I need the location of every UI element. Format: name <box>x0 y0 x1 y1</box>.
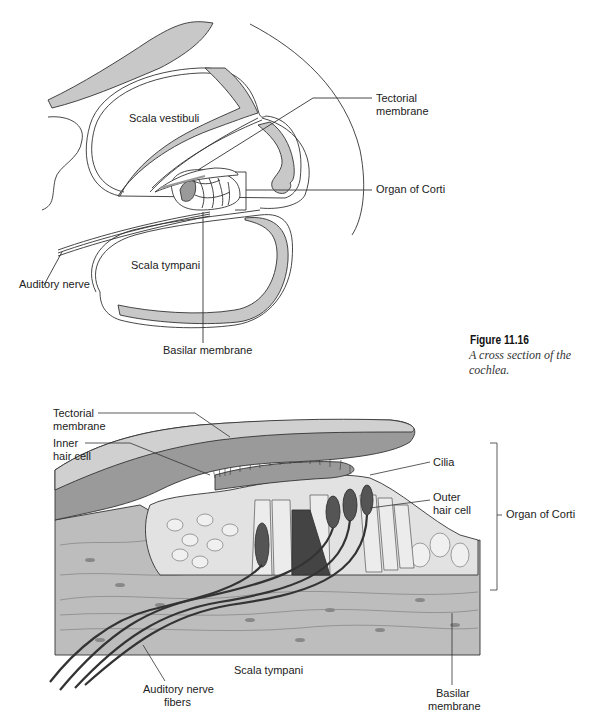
label-tectorial-membrane-top-2: membrane <box>376 105 429 118</box>
label-tectorial-membrane-top-1: Tectorial <box>376 92 417 105</box>
label-cilia: Cilia <box>433 456 454 469</box>
label-basilar-membrane-bottom-1: Basilar <box>436 687 470 700</box>
figure-number: Figure 11.16 <box>470 333 529 347</box>
label-basilar-membrane-bottom-2: membrane <box>428 700 481 713</box>
label-inner-hair-cell-1: Inner <box>53 437 78 450</box>
label-inner-hair-cell-2: hair cell <box>53 450 91 463</box>
label-outer-hair-cell-2: hair cell <box>433 504 471 517</box>
label-tectorial-membrane-bottom-2: membrane <box>53 420 106 433</box>
label-organ-of-corti-top: Organ of Corti <box>376 183 445 196</box>
label-basilar-membrane-top: Basilar membrane <box>163 344 252 357</box>
label-outer-hair-cell-1: Outer <box>433 491 461 504</box>
label-auditory-nerve: Auditory nerve <box>19 278 90 291</box>
label-scala-vestibuli: Scala vestibuli <box>129 112 199 125</box>
label-auditory-nerve-fibers-1: Auditory nerve <box>143 683 214 696</box>
label-scala-tympani-bottom: Scala tympani <box>234 664 303 677</box>
label-tectorial-membrane-bottom-1: Tectorial <box>53 407 94 420</box>
label-auditory-nerve-fibers-2: fibers <box>164 696 191 709</box>
label-organ-of-corti-bottom: Organ of Corti <box>506 508 575 521</box>
figure-caption: A cross section of the cochlea. <box>469 348 599 378</box>
organ-of-corti-detail-diagram <box>50 413 502 690</box>
label-scala-tympani: Scala tympani <box>131 259 200 272</box>
